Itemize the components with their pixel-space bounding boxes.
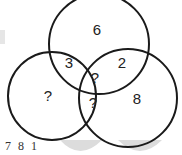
region-center: ? (91, 69, 99, 86)
venn-diagram: 6 3 2 ? ? ? 8 (0, 0, 182, 155)
region-top-only: 6 (93, 21, 101, 38)
watermark-fragment (0, 30, 5, 44)
region-right-only: 8 (133, 90, 141, 107)
region-left-only: ? (44, 87, 52, 104)
region-top-right: 2 (118, 54, 126, 71)
footer-text: 7 8 1 (5, 139, 39, 154)
region-top-left: 3 (65, 54, 73, 71)
watermark-shape-left (60, 140, 102, 151)
region-left-right: ? (89, 94, 97, 111)
